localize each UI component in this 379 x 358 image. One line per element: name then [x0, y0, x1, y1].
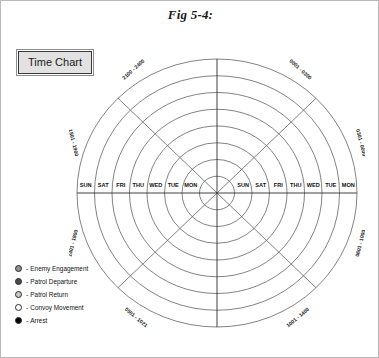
legend-item: -Patrol Return: [15, 288, 135, 301]
legend-item-label: Arrest: [30, 317, 47, 324]
day-label-fri-right: FRI: [274, 182, 283, 188]
legend: -Enemy Engagement-Patrol Departure-Patro…: [15, 262, 135, 327]
spoke-diagonal-3: [118, 98, 217, 193]
legend-dash: -: [26, 304, 28, 311]
circle-hollow-icon: [15, 304, 22, 311]
day-label-fri-left: FRI: [116, 182, 125, 188]
legend-dash: -: [26, 291, 28, 298]
sector-label-right-upper: 0301 - 0600: [355, 128, 365, 156]
figure-page: Fig 5-4: Time Chart SUNSATFRITHUWEDTUEMO…: [0, 0, 379, 358]
spoke-diagonal-1: [217, 193, 316, 288]
circle-gray-filled-icon: [15, 265, 22, 272]
circle-black-filled-icon: [15, 317, 22, 324]
circle-dark-filled-icon: [15, 278, 22, 285]
day-label-thu-right: THU: [290, 182, 302, 188]
day-label-sun-left: SUN: [80, 182, 92, 188]
legend-dash: -: [26, 278, 28, 285]
sector-label-upper-left: 2100 - 2400: [121, 58, 146, 81]
day-label-sat-left: SAT: [98, 182, 109, 188]
legend-item: -Convoy Movement: [15, 301, 135, 314]
page-title: Fig 5-4:: [1, 7, 379, 23]
legend-item-label: Patrol Departure: [30, 278, 77, 285]
sector-label-right-lower: 0601 - 1000: [354, 229, 365, 257]
day-label-tue-right: TUE: [325, 182, 336, 188]
day-label-sun-right: SUN: [237, 182, 249, 188]
day-label-mon-left: MON: [184, 182, 197, 188]
day-label-wed-right: WED: [307, 182, 320, 188]
day-label-wed-left: WED: [149, 182, 162, 188]
day-label-thu-left: THU: [133, 182, 145, 188]
legend-item-label: Convoy Movement: [30, 304, 83, 311]
circle-light-filled-icon: [15, 291, 22, 298]
legend-dash: -: [26, 317, 28, 324]
sector-label-left-lower: 1401 - 1800: [69, 229, 79, 257]
sector-label-upper-right: 0001 - 0300: [288, 58, 313, 81]
legend-item-label: Patrol Return: [30, 291, 68, 298]
day-label-tue-left: TUE: [168, 182, 179, 188]
sector-label-lower-right: 1001 - 1400: [285, 306, 310, 328]
day-label-sat-right: SAT: [255, 182, 266, 188]
day-label-mon-right: MON: [342, 182, 355, 188]
spoke-diagonal-4: [217, 98, 316, 193]
legend-dash: -: [26, 265, 28, 272]
legend-item-label: Enemy Engagement: [30, 265, 88, 272]
legend-item: -Patrol Departure: [15, 275, 135, 288]
sector-label-left-upper: 1801 - 1900: [69, 128, 80, 156]
legend-item: -Arrest: [15, 314, 135, 327]
legend-item: -Enemy Engagement: [15, 262, 135, 275]
